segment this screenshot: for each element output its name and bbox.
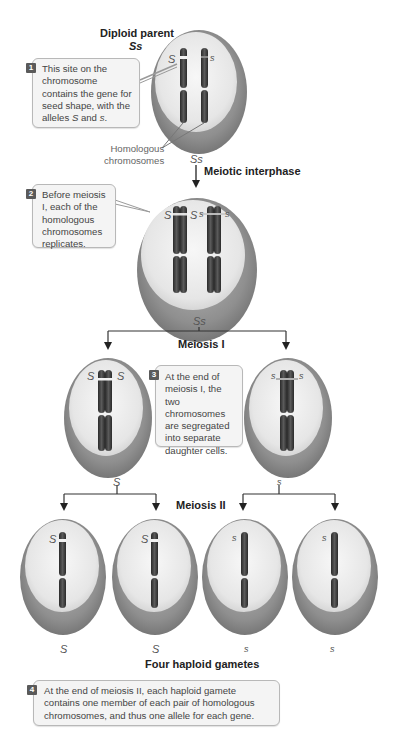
four-haploid-gametes-title: Four haploid gametes: [145, 658, 259, 670]
chromosome-s: [201, 48, 208, 88]
m1-left-label-2: S: [117, 370, 124, 382]
replicated-genotype: Ss: [193, 315, 206, 327]
gamete-3-chromosome-label: s: [232, 533, 237, 543]
step-badge-2: 2: [26, 189, 36, 199]
m1-left-label-1: S: [87, 370, 94, 382]
meiosis1-cell-left: [64, 358, 152, 478]
m1-right-label-1: s: [271, 371, 276, 381]
m1-left-genotype: S: [113, 476, 120, 488]
meiosis1-cell-right: [244, 358, 332, 478]
step-badge-4: 4: [27, 685, 37, 695]
replicated-label-1: S: [164, 209, 171, 221]
gamete-2-chromosome-label: S: [141, 533, 148, 545]
allele-label-S: S: [168, 53, 175, 65]
gamete-3-genotype: s: [244, 644, 249, 654]
diploid-parent-title: Diploid parent: [100, 27, 174, 39]
callout-3: 3 At the end of meiosis I, the two chrom…: [155, 365, 243, 447]
step-badge-3: 3: [149, 370, 159, 380]
chromosome-S: [180, 48, 187, 88]
gamete-cell-1: [20, 519, 106, 635]
interphase-genotype: Ss: [190, 153, 203, 165]
m1-right-label-2: s: [299, 371, 304, 381]
replicated-label-4: s: [225, 209, 230, 219]
gamete-4-genotype: s: [330, 644, 335, 654]
callout-1: 1 This site on the chromosome contains t…: [32, 58, 140, 128]
callout-4: 4 At the end of meiosis II, each haploid…: [33, 680, 280, 726]
gamete-2-genotype: S: [152, 643, 159, 655]
meiotic-interphase-label: Meiotic interphase: [204, 165, 301, 177]
diploid-parent-genotype: Ss: [129, 40, 142, 52]
gamete-1-chromosome-label: S: [49, 533, 56, 545]
replicated-label-3: s: [199, 209, 204, 219]
gamete-cell-3: [202, 519, 288, 635]
callout-2: 2 Before meiosis I, each of the homologo…: [32, 184, 116, 248]
allele-label-s: s: [210, 53, 215, 63]
gamete-4-chromosome-label: s: [322, 533, 327, 543]
meiosis-1-label: Meiosis I: [178, 338, 224, 350]
m1-right-genotype: s: [277, 477, 282, 487]
gamete-cell-4: [292, 519, 378, 635]
parent-cell: [151, 30, 247, 154]
gamete-1-genotype: S: [60, 643, 67, 655]
meiosis-2-label: Meiosis II: [176, 499, 226, 511]
gamete-cell-2: [112, 519, 198, 635]
replicated-label-2: S: [190, 209, 197, 221]
homologous-chromosomes-label: Homologous chromosomes: [104, 143, 164, 167]
step-badge-1: 1: [26, 63, 36, 73]
